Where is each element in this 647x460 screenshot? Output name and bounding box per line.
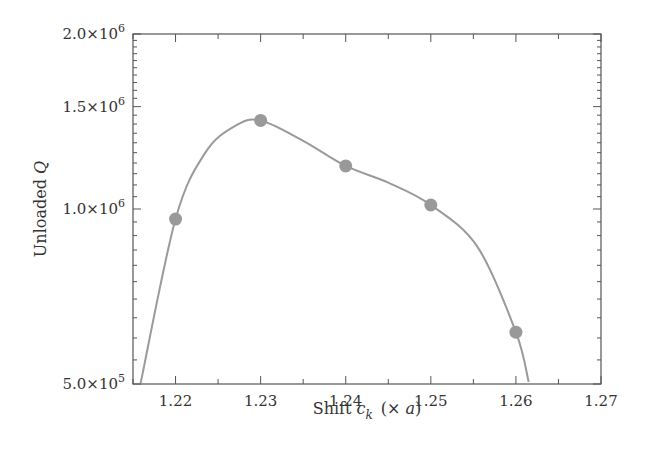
x-axis-title: Shift ck(× a) [313, 399, 422, 422]
x-tick-label: 1.27 [584, 392, 617, 410]
data-markers [169, 114, 522, 339]
data-point [424, 198, 437, 211]
fit-curve [141, 120, 529, 383]
x-tick-label: 1.26 [499, 392, 532, 410]
data-point [169, 213, 182, 226]
x-tick-label: 1.23 [244, 392, 277, 410]
chart: 5.0×1051.0×1061.5×1062.0×106 1.221.231.2… [0, 0, 647, 460]
y-tick-labels: 5.0×1051.0×1061.5×1062.0×106 [62, 22, 125, 393]
y-tick-label: 1.5×106 [62, 95, 125, 116]
y-tick-label: 1.0×106 [62, 197, 125, 218]
y-tick-label: 2.0×106 [62, 22, 125, 43]
axis-ticks [133, 34, 601, 384]
data-point [254, 114, 267, 127]
y-tick-label: 5.0×105 [62, 372, 125, 393]
data-point [339, 159, 352, 172]
y-axis-title: Unloaded Q [31, 161, 50, 257]
x-tick-label: 1.22 [159, 392, 192, 410]
data-point [509, 326, 522, 339]
plot-frame [133, 34, 601, 384]
